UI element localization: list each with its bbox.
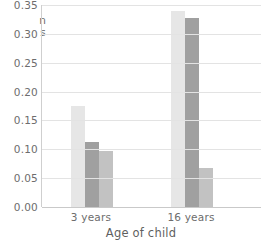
gridline <box>42 92 261 93</box>
y-axis-tick-label: 0.05 <box>4 173 38 183</box>
y-axis-tick-label: 0.10 <box>4 144 38 154</box>
bar <box>85 142 99 207</box>
bar-group-16-years <box>142 5 242 207</box>
y-axis-tick-labels: 0.000.050.100.150.200.250.300.35 <box>0 0 38 242</box>
gridline <box>42 34 261 35</box>
bar-group-3-years <box>42 5 142 207</box>
gridline <box>42 178 261 179</box>
y-axis-tick-label: 0.25 <box>4 58 38 68</box>
x-axis-title: Age of child <box>41 226 241 240</box>
bar-chart: n s 0.000.050.100.150.200.250.300.35 3 y… <box>0 0 261 242</box>
x-axis-tick-label: 16 years <box>141 211 241 223</box>
y-axis-tick-label: 0.00 <box>4 202 38 212</box>
y-axis-tick-label: 0.30 <box>4 29 38 39</box>
gridline <box>42 5 261 6</box>
x-axis-tick-labels: 3 years 16 years <box>41 211 261 227</box>
gridline <box>42 63 261 64</box>
x-axis-baseline <box>42 207 261 208</box>
y-axis-tick-label: 0.20 <box>4 87 38 97</box>
bar <box>199 168 213 207</box>
y-axis-tick-label: 0.15 <box>4 115 38 125</box>
plot-area <box>41 5 261 207</box>
gridline <box>42 149 261 150</box>
y-axis-tick-label: 0.35 <box>4 0 38 10</box>
gridline <box>42 120 261 121</box>
x-axis-tick-label: 3 years <box>41 211 141 223</box>
